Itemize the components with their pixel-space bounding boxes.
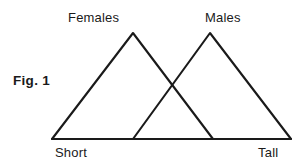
axis-label-short: Short (55, 146, 87, 159)
males-distribution-curve (133, 33, 291, 139)
figure-caption: Fig. 1 (13, 74, 50, 88)
figure-container: Fig. 1 Females Males Short Tall (0, 0, 306, 164)
series-label-females: Females (68, 11, 119, 24)
females-distribution-curve (52, 33, 213, 139)
series-label-males: Males (205, 11, 241, 24)
axis-label-tall: Tall (258, 146, 278, 159)
